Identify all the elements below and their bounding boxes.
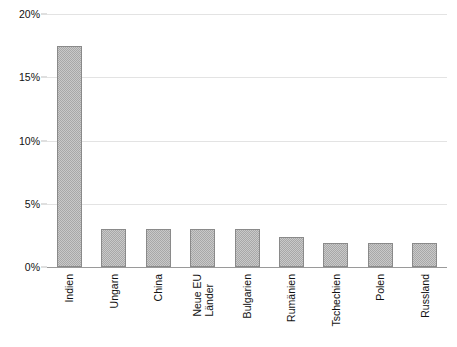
bar xyxy=(323,243,348,267)
x-axis-label-slot: Indien xyxy=(47,272,91,347)
bar xyxy=(235,229,260,267)
x-axis-label-slot: China xyxy=(136,272,180,347)
bar-slot xyxy=(235,14,260,267)
x-axis-tick-label: Ungarn xyxy=(108,274,119,308)
x-axis-label-slot: Polen xyxy=(358,272,402,347)
x-axis-label-slot: Neue EULänder xyxy=(180,272,224,347)
x-axis-label-slot: Rumänien xyxy=(269,272,313,347)
bar xyxy=(279,237,304,267)
bar-series xyxy=(47,14,447,267)
x-axis-tick-label: Bulgarien xyxy=(241,274,252,318)
x-axis-tick-label: Tschechien xyxy=(330,274,341,327)
axis-baseline xyxy=(47,267,447,268)
bar xyxy=(412,243,437,267)
x-axis-label-slot: Tschechien xyxy=(314,272,358,347)
y-axis-tick-label: 20% xyxy=(0,9,40,20)
y-axis-tick-label: 10% xyxy=(0,135,40,146)
bar-slot xyxy=(101,14,126,267)
bar xyxy=(146,229,171,267)
x-axis-tick-label: Rumänien xyxy=(286,274,297,322)
x-axis-tick-label: Indien xyxy=(64,274,75,303)
x-axis-tick-label: Neue EULänder xyxy=(191,274,214,317)
bar-slot xyxy=(279,14,304,267)
bar-slot xyxy=(146,14,171,267)
bar xyxy=(190,229,215,267)
bar-slot xyxy=(412,14,437,267)
x-axis-tick-label-line: Länder xyxy=(203,274,215,317)
bar-slot xyxy=(323,14,348,267)
x-axis-labels: IndienUngarnChinaNeue EULänderBulgarienR… xyxy=(47,272,447,347)
bar xyxy=(368,243,393,267)
bar xyxy=(57,46,82,267)
bar xyxy=(101,229,126,267)
x-axis-label-slot: Russland xyxy=(403,272,447,347)
bar-slot xyxy=(57,14,82,267)
x-axis-tick-label-line: Neue EU xyxy=(191,274,203,317)
y-axis-tick-label: 0% xyxy=(0,262,40,273)
x-axis-tick-label: Polen xyxy=(375,274,386,301)
x-axis-tick-label: Russland xyxy=(419,274,430,318)
x-axis-label-slot: Ungarn xyxy=(91,272,135,347)
y-axis-tick-label: 5% xyxy=(0,199,40,210)
plot-area xyxy=(47,14,447,267)
bar-chart: 0%5%10%15%20% IndienUngarnChinaNeue EULä… xyxy=(0,0,457,347)
y-axis-tick-label: 15% xyxy=(0,72,40,83)
x-axis-tick-label: China xyxy=(153,274,164,301)
x-axis-label-slot: Bulgarien xyxy=(225,272,269,347)
bar-slot xyxy=(190,14,215,267)
bar-slot xyxy=(368,14,393,267)
